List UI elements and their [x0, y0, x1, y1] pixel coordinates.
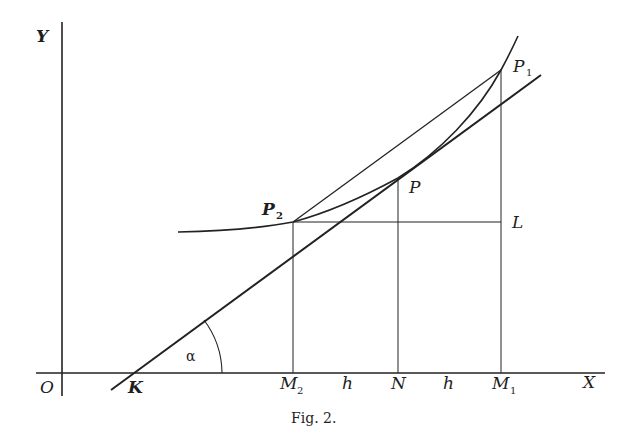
secant-tangent-diagram: Y O X K α M 2 h N h M 1 P 2 P L P 1 Fig.…	[0, 0, 635, 447]
point-P2-label: P	[261, 199, 276, 219]
curve	[178, 36, 518, 232]
secant-line	[293, 70, 501, 222]
point-M1-label: M	[491, 373, 510, 393]
origin-label: O	[40, 377, 54, 397]
point-M2-subscript: 2	[297, 385, 303, 396]
x-axis-label: X	[581, 372, 596, 392]
point-N-label: N	[390, 373, 407, 393]
point-P2-subscript: 2	[276, 210, 283, 221]
angle-alpha-label: α	[186, 348, 196, 364]
point-M2-label: M	[279, 373, 298, 393]
point-M1-subscript: 1	[510, 385, 516, 396]
point-P-label: P	[408, 177, 421, 197]
y-axis-label: Y	[36, 26, 50, 46]
figure-caption: Fig. 2.	[291, 410, 336, 426]
tangent-line	[111, 75, 541, 390]
point-K-label: K	[127, 377, 144, 397]
segment-h-right: h	[443, 373, 454, 393]
point-P1-label: P	[512, 56, 525, 76]
angle-arc	[204, 320, 222, 373]
point-L-label: L	[511, 212, 523, 232]
point-P1-subscript: 1	[526, 67, 532, 78]
segment-h-left: h	[342, 373, 353, 393]
